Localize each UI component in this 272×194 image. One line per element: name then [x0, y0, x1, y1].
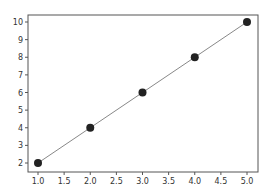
x-axis-ticks: 1.01.52.02.53.03.54.04.55.0	[32, 172, 254, 186]
data-point-marker	[191, 53, 199, 61]
x-tick-label: 3.5	[162, 177, 175, 186]
y-tick-label: 4	[18, 124, 23, 133]
y-tick-label: 8	[18, 53, 23, 62]
line-chart: 1.01.52.02.53.03.54.04.55.0 2345678910	[0, 0, 272, 194]
data-point-marker	[34, 159, 42, 167]
y-tick-label: 10	[13, 18, 23, 27]
y-axis-ticks: 2345678910	[13, 18, 28, 168]
x-tick-label: 4.0	[188, 177, 201, 186]
data-point-marker	[243, 18, 251, 26]
x-tick-label: 2.0	[84, 177, 97, 186]
x-tick-label: 3.0	[136, 177, 149, 186]
y-tick-label: 2	[18, 159, 23, 168]
x-tick-label: 5.0	[241, 177, 254, 186]
data-point-marker	[139, 89, 147, 97]
data-point-marker	[86, 124, 94, 132]
y-tick-label: 6	[18, 89, 23, 98]
y-tick-label: 7	[18, 71, 23, 80]
x-tick-label: 2.5	[110, 177, 123, 186]
x-tick-label: 4.5	[215, 177, 228, 186]
y-tick-label: 3	[18, 141, 23, 150]
x-tick-label: 1.0	[32, 177, 45, 186]
x-tick-label: 1.5	[58, 177, 71, 186]
y-tick-label: 5	[18, 106, 23, 115]
y-tick-label: 9	[18, 36, 23, 45]
